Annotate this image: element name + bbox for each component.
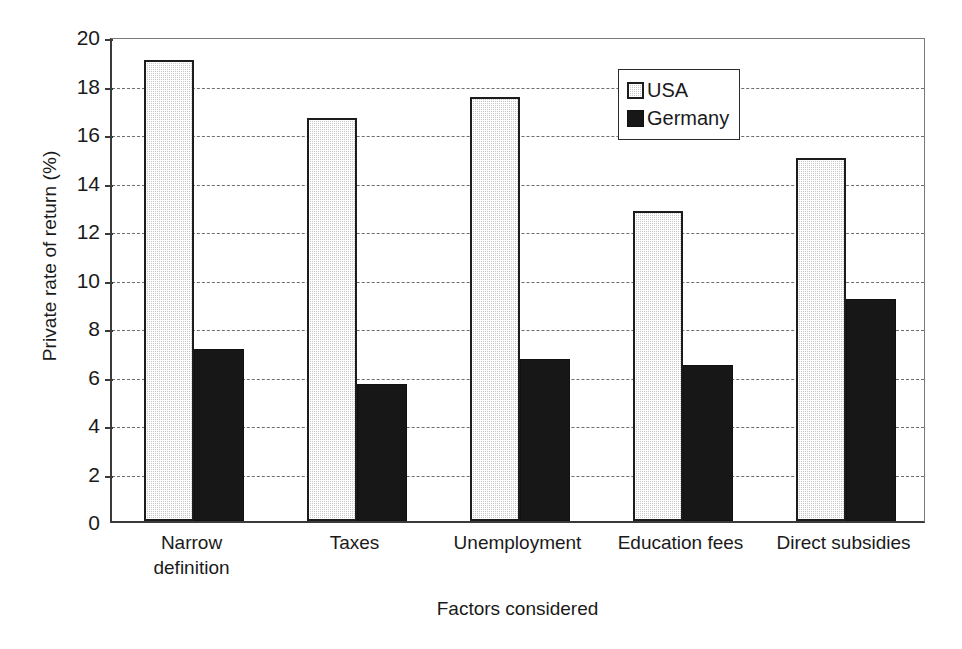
- bar-usa: [796, 158, 846, 521]
- x-tick-label: Unemployment: [426, 530, 609, 555]
- y-tick-label: 0: [46, 512, 100, 533]
- bar-usa: [144, 60, 194, 521]
- bar-group: [470, 39, 570, 521]
- legend-item-germany: Germany: [627, 104, 729, 132]
- x-axis-tick-labels: NarrowdefinitionTaxesUnemploymentEducati…: [110, 530, 925, 600]
- y-tick-mark: [105, 330, 113, 332]
- y-tick-label: 14: [46, 173, 100, 194]
- legend-label: USA: [647, 79, 688, 102]
- x-tick-label-line: Taxes: [263, 530, 446, 555]
- plot-area: [110, 38, 925, 523]
- x-tick-label-line: Direct subsidies: [752, 530, 935, 555]
- y-tick-label: 20: [46, 27, 100, 48]
- y-tick-mark: [105, 185, 113, 187]
- bar-germany: [194, 349, 244, 521]
- y-tick-mark: [105, 233, 113, 235]
- bar-group: [796, 39, 896, 521]
- y-tick-label: 10: [46, 270, 100, 291]
- bar-chart: Private rate of return (%) 0246810121416…: [0, 0, 962, 649]
- bar-group: [307, 39, 407, 521]
- bar-germany: [683, 365, 733, 521]
- y-tick-label: 4: [46, 415, 100, 436]
- y-tick-label: 2: [46, 464, 100, 485]
- x-tick-label: Taxes: [263, 530, 446, 555]
- legend-label: Germany: [647, 107, 729, 130]
- y-tick-label: 6: [46, 367, 100, 388]
- bar-germany: [846, 299, 896, 521]
- y-axis-tick-labels: 02468101214161820: [46, 0, 100, 649]
- bar-usa: [633, 211, 683, 521]
- x-tick-label-line: Narrow: [100, 530, 283, 555]
- bar-group: [144, 39, 244, 521]
- bar-groups: [112, 39, 924, 521]
- x-tick-label-line: Unemployment: [426, 530, 609, 555]
- y-tick-mark: [105, 282, 113, 284]
- bar-germany: [357, 384, 407, 521]
- x-tick-label-line: definition: [100, 555, 283, 580]
- y-tick-mark: [105, 88, 113, 90]
- y-tick-label: 12: [46, 221, 100, 242]
- x-axis-title: Factors considered: [110, 598, 925, 620]
- y-tick-mark: [105, 379, 113, 381]
- bar-usa: [307, 118, 357, 521]
- bar-usa: [470, 97, 520, 521]
- y-tick-label: 16: [46, 124, 100, 145]
- y-tick-mark: [105, 427, 113, 429]
- bar-germany: [520, 359, 570, 521]
- y-tick-mark: [105, 476, 113, 478]
- x-tick-label: Direct subsidies: [752, 530, 935, 555]
- y-tick-mark: [105, 39, 113, 41]
- legend-item-usa: USA: [627, 76, 729, 104]
- legend: USAGermany: [618, 69, 740, 140]
- x-tick-label: Narrowdefinition: [100, 530, 283, 580]
- x-tick-label-line: Education fees: [589, 530, 772, 555]
- germany-swatch: [627, 110, 644, 127]
- usa-swatch: [627, 82, 644, 99]
- y-tick-label: 8: [46, 318, 100, 339]
- x-tick-label: Education fees: [589, 530, 772, 555]
- y-tick-mark: [105, 136, 113, 138]
- y-tick-label: 18: [46, 76, 100, 97]
